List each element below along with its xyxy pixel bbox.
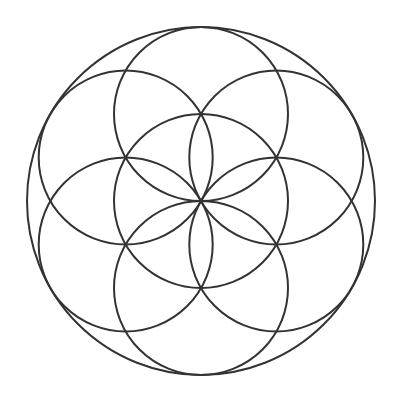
seed-of-life-diagram [0, 0, 405, 399]
circle-group [27, 27, 375, 375]
